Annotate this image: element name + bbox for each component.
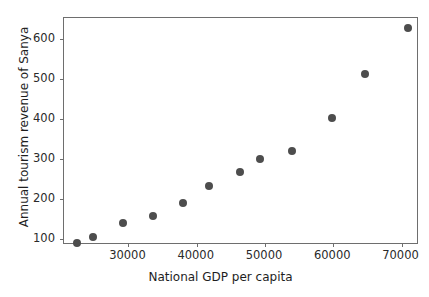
scatter-point	[179, 199, 187, 207]
scatter-point	[119, 219, 127, 227]
y-axis-tick	[60, 79, 64, 80]
x-axis-tick-label: 60000	[314, 248, 351, 262]
figure-canvas: 100200300400500600 300004000050000600007…	[0, 0, 429, 297]
x-axis-tick	[265, 243, 266, 247]
x-axis-title: National GDP per capita	[0, 270, 429, 284]
scatter-point	[288, 147, 296, 155]
scatter-point	[236, 168, 244, 176]
y-axis-tick	[60, 199, 64, 200]
scatter-point	[205, 182, 213, 190]
y-axis-title: Annual tourism revenue of Sanya	[17, 17, 31, 237]
x-axis-tick	[197, 243, 198, 247]
plot-area	[63, 17, 418, 244]
x-axis-tick	[128, 243, 129, 247]
y-axis-tick	[60, 239, 64, 240]
x-axis-tick-label: 30000	[109, 248, 146, 262]
scatter-point	[256, 155, 264, 163]
x-axis-tick	[402, 243, 403, 247]
x-axis-tick-label: 50000	[246, 248, 283, 262]
scatter-point	[73, 239, 81, 247]
y-axis-tick	[60, 39, 64, 40]
scatter-point	[89, 233, 97, 241]
scatter-point	[149, 212, 157, 220]
y-axis-tick	[60, 159, 64, 160]
scatter-point	[328, 114, 336, 122]
x-axis-title-text: National GDP per capita	[148, 270, 292, 284]
x-axis-tick-label: 70000	[382, 248, 419, 262]
y-axis-tick	[60, 119, 64, 120]
scatter-point	[361, 70, 369, 78]
x-axis-tick-label: 40000	[177, 248, 214, 262]
scatter-point	[404, 24, 412, 32]
x-axis-tick	[333, 243, 334, 247]
